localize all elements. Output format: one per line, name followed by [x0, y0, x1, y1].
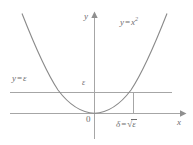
delta-equation-label: δ=√ε	[116, 119, 137, 129]
graph-canvas	[0, 0, 193, 145]
curve-equation-label: y=x2	[120, 18, 138, 27]
epsilon-tick-label: ε	[82, 79, 85, 87]
y-axis-label: y	[84, 12, 88, 21]
x-axis-arrow-icon	[180, 110, 187, 116]
figure-container: y x 0 ε y=ε y=x2 δ=√ε	[0, 0, 193, 145]
horizontal-line-equation-label: y=ε	[12, 74, 27, 83]
curve-exponent: 2	[135, 16, 138, 22]
horizontal-line-rhs: ε	[23, 73, 27, 83]
origin-label: 0	[86, 115, 91, 124]
y-axis-arrow-icon	[91, 12, 97, 19]
delta-operator: =	[120, 119, 127, 129]
delta-radicand: ε	[131, 119, 137, 129]
x-axis-label: x	[177, 118, 181, 127]
